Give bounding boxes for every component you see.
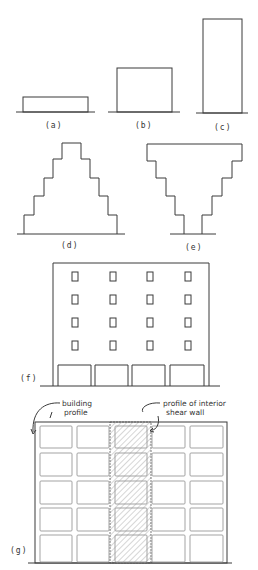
panel-f: (f) [20,263,220,386]
panel-a: (a) [16,97,95,130]
annotation-profile: profile [64,408,88,417]
annotation-shear-line1: profile of interior [163,399,227,408]
label-b: (b) [135,121,152,130]
panel-c: (c) [196,19,248,132]
label-e: (e) [185,243,202,252]
panel-e: (e) [147,144,242,252]
label-d: (d) [61,241,78,250]
annotation-shear-line2: shear wall [166,408,204,417]
window-grid [72,272,191,350]
label-a: (a) [45,121,62,130]
label-c: (c) [214,123,231,132]
annotation-building: building [62,399,92,408]
panel-b: (b) [108,68,180,130]
shear-wall [110,422,151,563]
building-profiles-diagram: (a) (b) (c) (d) (e) [0,0,258,570]
label-f: (f) [20,374,37,383]
label-g: (g) [10,546,27,555]
panel-d: (d) [17,143,125,250]
ground-story-openings [58,365,204,386]
panel-g: building profile profile of interior she… [10,399,232,563]
